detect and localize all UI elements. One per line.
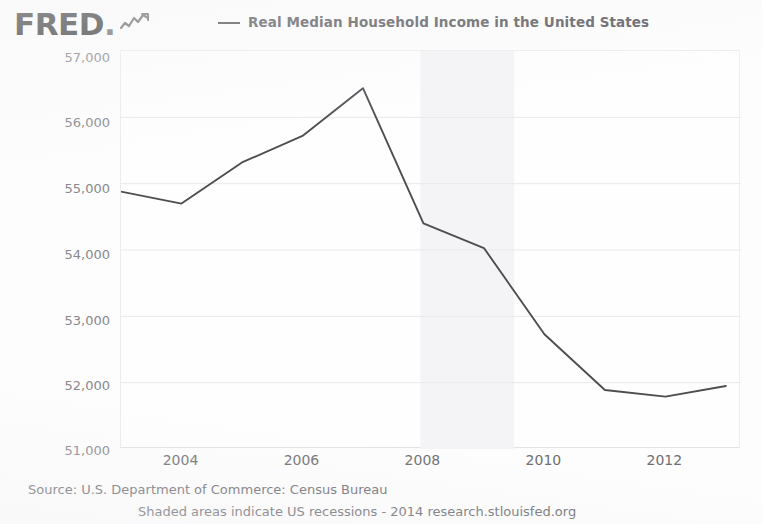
chart-plot-area	[120, 50, 740, 448]
y-tick-label: 52,000	[44, 378, 110, 393]
line-chart-squiggle-icon	[120, 12, 150, 36]
legend-line-swatch	[218, 22, 240, 24]
footer-recession-note: Shaded areas indicate US recessions - 20…	[138, 504, 576, 519]
x-axis-tick-labels: 20042006200820102012	[120, 452, 740, 478]
chart-svg	[121, 51, 741, 449]
x-tick-label: 2008	[405, 452, 441, 468]
y-tick-label: 51,000	[44, 443, 110, 458]
y-tick-label: 54,000	[44, 247, 110, 262]
y-tick-label: 57,000	[44, 50, 110, 65]
y-axis-tick-labels: 57,000 56,000 55,000 54,000 53,000 52,00…	[44, 0, 110, 524]
fred-chart-page: FRED . Real Median Household Income in t…	[0, 0, 762, 524]
chart-legend: Real Median Household Income in the Unit…	[218, 14, 649, 30]
x-tick-label: 2010	[526, 452, 562, 468]
y-tick-label: 53,000	[44, 313, 110, 328]
y-tick-label: 55,000	[44, 181, 110, 196]
x-tick-label: 2006	[284, 452, 320, 468]
x-tick-label: 2012	[647, 452, 683, 468]
legend-series-label: Real Median Household Income in the Unit…	[248, 14, 649, 30]
x-tick-label: 2004	[163, 452, 199, 468]
footer-source-text: Source: U.S. Department of Commerce: Cen…	[28, 482, 388, 497]
y-tick-label: 56,000	[44, 115, 110, 130]
chart-header: FRED . Real Median Household Income in t…	[0, 0, 762, 48]
